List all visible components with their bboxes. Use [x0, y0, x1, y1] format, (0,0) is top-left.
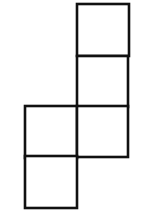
square-sq-1 [77, 4, 129, 56]
diagram-canvas [0, 0, 141, 211]
square-sq-2 [77, 56, 128, 107]
square-sq-5 [25, 156, 77, 208]
square-net-diagram [0, 0, 141, 211]
square-sq-4 [77, 106, 128, 157]
square-sq-3 [25, 106, 77, 158]
